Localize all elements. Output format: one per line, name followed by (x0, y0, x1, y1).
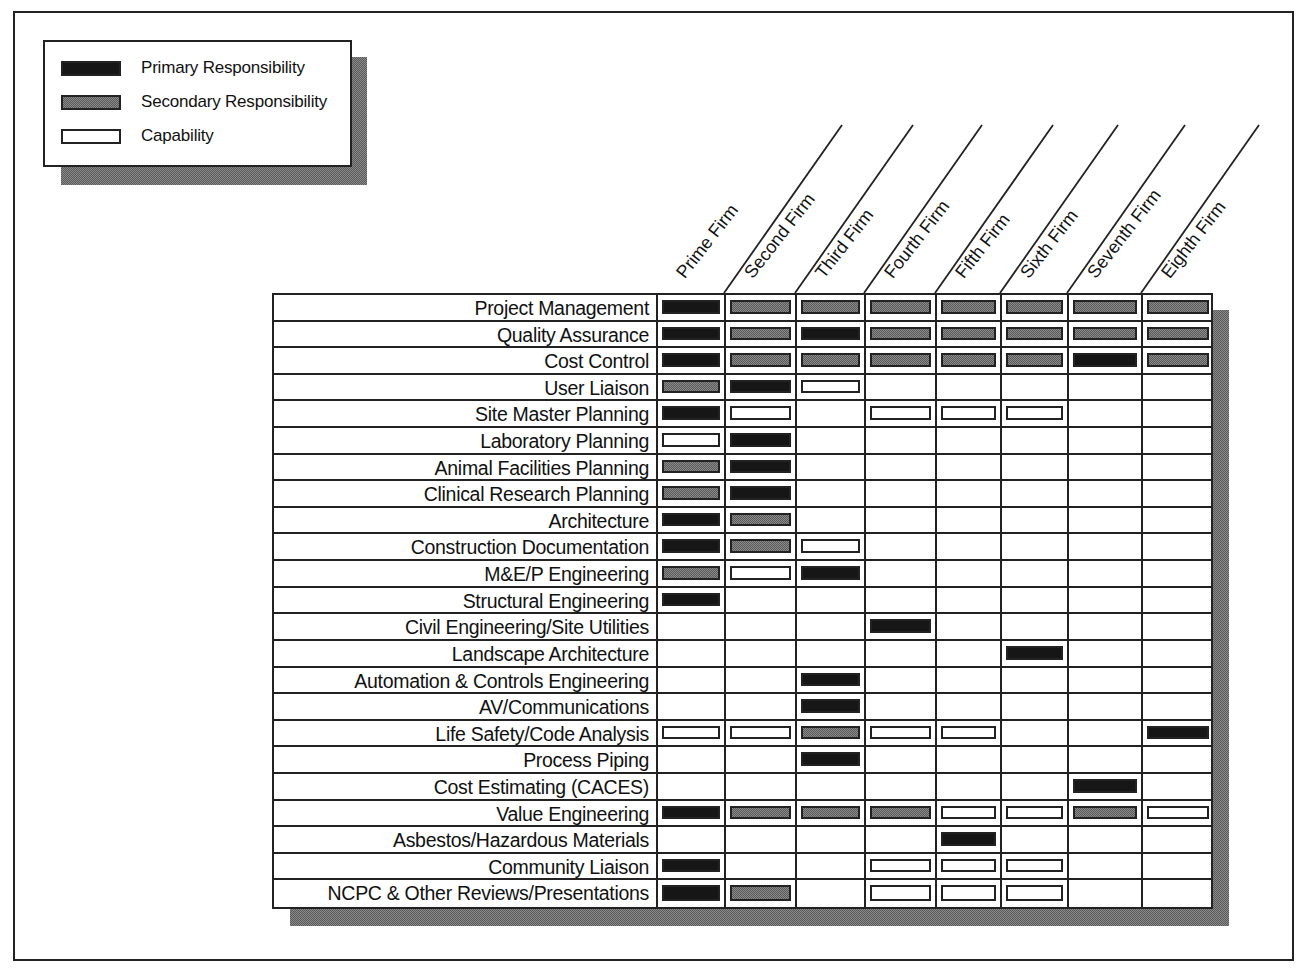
row-label: Quality Assurance (274, 322, 649, 347)
row-label: Asbestos/Hazardous Materials (274, 827, 649, 852)
secondary-responsibility-bar (870, 353, 931, 367)
secondary-responsibility-bar (1073, 327, 1137, 341)
matrix-cell (1141, 481, 1213, 506)
matrix-cell (935, 481, 1000, 506)
matrix-cell (1141, 348, 1213, 373)
matrix-cell (656, 428, 724, 453)
row-label: Process Piping (274, 747, 649, 772)
matrix-cell (795, 641, 864, 666)
secondary-responsibility-bar (801, 806, 860, 820)
table-row: Project Management (274, 295, 1211, 322)
table-row: Structural Engineering (274, 588, 1211, 615)
matrix-cell (795, 747, 864, 772)
primary-responsibility-bar (662, 539, 720, 553)
table-row: User Liaison (274, 375, 1211, 402)
secondary-responsibility-bar (1147, 353, 1209, 367)
row-label: Architecture (274, 508, 649, 533)
matrix-cell (864, 348, 935, 373)
matrix-cell (1141, 721, 1213, 746)
matrix-cell (935, 747, 1000, 772)
matrix-cell (935, 694, 1000, 719)
table-row: Architecture (274, 508, 1211, 535)
matrix-cell (1067, 561, 1141, 586)
matrix-cell (795, 561, 864, 586)
matrix-cell (864, 401, 935, 426)
capability-bar (1006, 806, 1063, 820)
matrix-cell (1141, 534, 1213, 559)
matrix-cell (1067, 588, 1141, 613)
table-shadow-bottom (290, 909, 1229, 926)
matrix-cell (1000, 588, 1067, 613)
secondary-responsibility-bar (662, 460, 720, 474)
row-label: Cost Estimating (CACES) (274, 774, 649, 799)
matrix-cell (1141, 588, 1213, 613)
matrix-cell (1000, 322, 1067, 347)
matrix-cell (935, 401, 1000, 426)
matrix-cell (1000, 854, 1067, 879)
matrix-cell (724, 694, 795, 719)
matrix-cell (1141, 801, 1213, 826)
primary-responsibility-bar (662, 353, 720, 367)
matrix-cell (724, 455, 795, 480)
matrix-cell (1067, 428, 1141, 453)
primary-responsibility-bar (662, 806, 720, 820)
matrix-cell (795, 428, 864, 453)
matrix-cell (795, 295, 864, 320)
matrix-cell (724, 668, 795, 693)
matrix-cell (1067, 827, 1141, 852)
primary-responsibility-bar (662, 859, 720, 873)
capability-bar (941, 885, 996, 901)
matrix-cell (935, 561, 1000, 586)
capability-bar (870, 885, 931, 901)
primary-responsibility-bar (730, 380, 791, 394)
primary-responsibility-bar (1006, 646, 1063, 660)
matrix-cell (864, 614, 935, 639)
row-label: NCPC & Other Reviews/Presentations (274, 880, 649, 907)
matrix-cell (1141, 668, 1213, 693)
matrix-cell (795, 721, 864, 746)
capability-bar (870, 859, 931, 873)
matrix-cell (724, 721, 795, 746)
row-label: Cost Control (274, 348, 649, 373)
matrix-cell (1067, 508, 1141, 533)
matrix-cell (724, 561, 795, 586)
matrix-cell (1067, 747, 1141, 772)
matrix-cell (1000, 401, 1067, 426)
responsibility-matrix: Project ManagementQuality AssuranceCost … (272, 293, 1213, 909)
matrix-cell (864, 694, 935, 719)
primary-responsibility-bar (941, 832, 996, 846)
capability-bar (1006, 859, 1063, 873)
matrix-cell (656, 401, 724, 426)
matrix-cell (935, 428, 1000, 453)
capability-bar (870, 406, 931, 420)
matrix-cell (864, 508, 935, 533)
matrix-cell (1141, 295, 1213, 320)
matrix-cell (1000, 668, 1067, 693)
matrix-cell (795, 774, 864, 799)
matrix-cell (656, 880, 724, 907)
matrix-cell (724, 801, 795, 826)
table-row: NCPC & Other Reviews/Presentations (274, 880, 1211, 907)
matrix-cell (656, 854, 724, 879)
primary-responsibility-bar (662, 327, 720, 341)
matrix-cell (864, 854, 935, 879)
secondary-responsibility-bar (1006, 327, 1063, 341)
matrix-cell (935, 827, 1000, 852)
secondary-responsibility-bar (941, 353, 996, 367)
matrix-cell (1067, 322, 1141, 347)
capability-bar (662, 433, 720, 447)
secondary-responsibility-bar (870, 806, 931, 820)
primary-responsibility-bar (801, 327, 860, 341)
table-row: Automation & Controls Engineering (274, 668, 1211, 695)
matrix-cell (656, 747, 724, 772)
matrix-cell (656, 694, 724, 719)
capability-bar (941, 406, 996, 420)
secondary-responsibility-bar (730, 806, 791, 820)
row-label: M&E/P Engineering (274, 561, 649, 586)
matrix-cell (935, 534, 1000, 559)
matrix-cell (656, 455, 724, 480)
matrix-cell (1000, 348, 1067, 373)
matrix-cell (795, 375, 864, 400)
matrix-cell (1067, 721, 1141, 746)
matrix-cell (935, 348, 1000, 373)
